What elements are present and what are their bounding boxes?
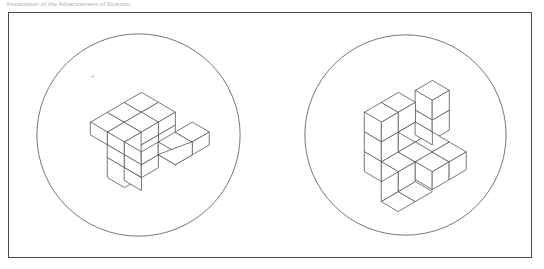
page-header-caption: Association of the Advancement of Scienc… bbox=[6, 0, 526, 8]
right-cube-assembly bbox=[365, 80, 467, 211]
left-stimulus-group bbox=[37, 34, 240, 236]
stimulus-canvas bbox=[9, 13, 531, 257]
right-stimulus-group bbox=[305, 35, 506, 235]
page-speck-icon bbox=[92, 75, 94, 77]
left-cube-assembly bbox=[91, 92, 210, 190]
mental-rotation-figure-panel bbox=[8, 12, 532, 258]
